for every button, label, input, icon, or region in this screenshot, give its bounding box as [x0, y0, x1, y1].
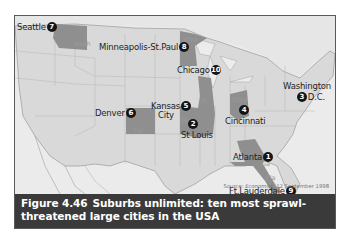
rank-badge: 4 — [239, 105, 249, 115]
rank-badge: 1 — [263, 152, 273, 162]
city-name: Seattle — [17, 23, 46, 32]
rank-badge: 2 — [188, 119, 198, 129]
city-cincinnati: Cincinnati — [225, 117, 265, 126]
rank-badge: 3 — [297, 92, 307, 102]
figure-number: Figure 4.46 — [21, 197, 88, 209]
state-label-ill: Ill — [201, 97, 207, 105]
rank-badge: 5 — [181, 101, 191, 111]
city-kansas-city: Kansas 5 City — [151, 101, 191, 120]
city-name: Cincinnati — [225, 117, 265, 126]
rank-badge: 6 — [126, 108, 136, 118]
city-denver: Denver 6 — [95, 108, 136, 118]
rank-badge: 7 — [47, 22, 57, 32]
source-prefix: Source: — [224, 183, 246, 189]
city-cincinnati-badge: 4 — [239, 105, 249, 115]
state-label-fla: Fla — [266, 174, 276, 182]
city-name: Atlanta — [233, 153, 262, 162]
source-publication: Economist — [245, 183, 273, 189]
city-name: Denver — [95, 109, 125, 118]
city-name: Minneapolis-St.Paul — [99, 43, 178, 52]
city-name-line1: Washington — [283, 82, 331, 91]
city-st-louis-badge: 2 — [188, 119, 198, 129]
city-name: Chicago — [177, 66, 210, 75]
caption-line1: Suburbs unlimited: ten most sprawl- — [93, 197, 306, 209]
state-label-ohio: Ohio — [232, 96, 247, 104]
source-note: Source: Economist, 12 September 1998 — [224, 183, 329, 189]
city-name: St Louis — [181, 131, 213, 140]
city-st-louis: St Louis — [181, 131, 213, 140]
map-figure: Wash Minn Col Ill Mo Ohio Ga Fla Seattle… — [14, 15, 336, 229]
rank-badge: 8 — [179, 42, 189, 52]
city-chicago: Chicago 10 — [177, 65, 221, 75]
rank-badge: 10 — [211, 65, 221, 75]
city-name-line2: D.C. — [308, 93, 325, 102]
usa-map: Wash Minn Col Ill Mo Ohio Ga Fla Seattle… — [15, 16, 335, 194]
state-label-wash: Wash — [73, 40, 91, 48]
figure-caption: Figure 4.46Suburbs unlimited: ten most s… — [15, 194, 335, 228]
city-minneapolis-st-paul: Minneapolis-St.Paul 8 — [99, 42, 189, 52]
city-name-line2: City — [158, 111, 174, 120]
source-date: , 12 September 1998 — [273, 183, 329, 189]
state-label-col: Col — [133, 127, 143, 135]
city-washington-dc: Washington 3 D.C. — [283, 82, 331, 102]
city-atlanta: Atlanta 1 — [233, 152, 273, 162]
city-seattle: Seattle 7 — [17, 22, 57, 32]
caption-line2: threatened large cities in the USA — [21, 210, 219, 222]
